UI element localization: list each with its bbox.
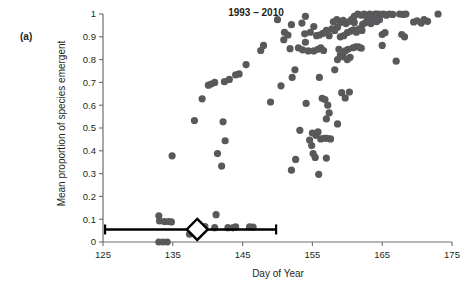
- scatter-point: [315, 171, 322, 178]
- scatter-point: [226, 76, 233, 83]
- scatter-point: [199, 95, 206, 102]
- scatter-point: [286, 45, 293, 52]
- x-tick-label: 155: [304, 249, 320, 260]
- scatter-point: [214, 150, 221, 157]
- scatter-point: [222, 137, 229, 144]
- scatter-point: [312, 154, 319, 161]
- data-points-group: [155, 10, 441, 245]
- y-tick-label: 0.9: [83, 31, 96, 42]
- scatter-point: [289, 74, 296, 81]
- x-axis-ticks: 125135145155165175: [95, 242, 460, 260]
- scatter-point: [381, 29, 388, 36]
- scatter-point: [314, 128, 321, 135]
- scatter-point: [358, 45, 365, 52]
- scatter-point: [274, 16, 281, 23]
- y-tick-label: 0.4: [83, 145, 96, 156]
- scatter-point: [342, 94, 349, 101]
- scatter-point: [334, 120, 341, 127]
- scatter-point: [212, 211, 219, 218]
- scatter-point: [242, 61, 249, 68]
- scatter-point: [346, 88, 353, 95]
- scatter-point: [327, 135, 334, 142]
- scatter-point: [298, 20, 305, 27]
- scatter-point: [284, 31, 291, 38]
- scatter-point: [324, 102, 331, 109]
- x-tick-label: 175: [444, 249, 460, 260]
- scatter-point: [169, 152, 176, 159]
- scatter-point: [267, 98, 274, 105]
- scatter-point: [323, 155, 330, 162]
- scatter-point: [191, 117, 198, 124]
- x-tick-label: 135: [165, 249, 181, 260]
- scatter-point: [296, 127, 303, 134]
- scatter-point: [379, 42, 386, 49]
- scatter-point: [331, 66, 338, 73]
- scatter-point: [277, 82, 284, 89]
- scatter-point: [218, 162, 225, 169]
- scatter-point: [326, 109, 333, 116]
- scatter-point: [292, 156, 299, 163]
- scatter-point: [288, 21, 295, 28]
- y-tick-label: 0: [91, 236, 96, 247]
- x-tick-label: 125: [95, 249, 111, 260]
- scatter-point: [164, 238, 171, 245]
- scatter-point: [434, 10, 441, 17]
- y-tick-label: 0.8: [83, 54, 96, 65]
- scatter-point: [257, 47, 264, 54]
- scatter-point: [310, 23, 317, 30]
- scatter-point: [219, 118, 226, 125]
- scatter-point: [401, 33, 408, 40]
- scatter-point: [346, 54, 353, 61]
- x-tick-label: 165: [374, 249, 390, 260]
- y-tick-label: 0.5: [83, 122, 96, 133]
- axis-spines: [103, 14, 452, 242]
- figure-panel-a: (a) 1993 – 2010 Mean proportion of speci…: [0, 0, 473, 291]
- scatter-point: [351, 19, 358, 26]
- scatter-point: [358, 27, 365, 34]
- scatter-point: [389, 11, 396, 18]
- scatter-point: [168, 218, 175, 225]
- scatter-point: [402, 10, 409, 17]
- scatter-point: [316, 74, 323, 81]
- y-tick-label: 1: [91, 8, 96, 19]
- y-tick-label: 0.7: [83, 77, 96, 88]
- y-tick-label: 0.3: [83, 168, 96, 179]
- scatter-point: [308, 142, 315, 149]
- scatter-point: [303, 100, 310, 107]
- scatter-point: [291, 66, 298, 73]
- scatter-point: [288, 167, 295, 174]
- scatter-plot-canvas: 00.10.20.30.40.50.60.70.80.91 1251351451…: [0, 0, 473, 291]
- scatter-point: [211, 79, 218, 86]
- y-axis-ticks: 00.10.20.30.40.50.60.70.80.91: [83, 8, 103, 247]
- x-tick-label: 145: [235, 249, 251, 260]
- scatter-point: [302, 39, 309, 46]
- scatter-point: [236, 70, 243, 77]
- scatter-point: [393, 58, 400, 65]
- scatter-point: [320, 47, 327, 54]
- y-tick-label: 0.2: [83, 191, 96, 202]
- y-tick-label: 0.1: [83, 214, 96, 225]
- scatter-point: [205, 82, 212, 89]
- scatter-point: [302, 13, 309, 20]
- scatter-point: [424, 18, 431, 25]
- scatter-point: [326, 32, 333, 39]
- y-tick-label: 0.6: [83, 100, 96, 111]
